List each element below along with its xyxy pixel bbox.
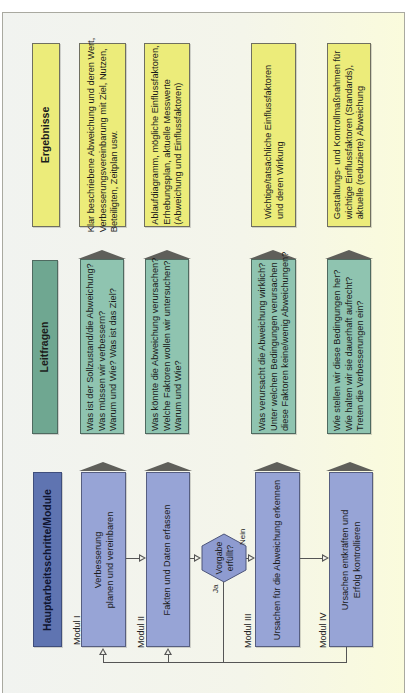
connector-line: [126, 558, 139, 559]
leitfrage-box-3: Was verursacht die Abweichung wirklich? …: [251, 259, 296, 434]
text-line: Verbesserung: [92, 511, 104, 608]
decision-no-label: Nein: [238, 529, 247, 545]
text-line: Erfolg kontrollieren: [351, 509, 363, 610]
text-line: Fakten und Daten erfassen: [162, 504, 174, 615]
module-header: Hauptarbeitsschritte/Module: [33, 472, 62, 647]
text-line: Wichtige/tatsächliche Einflussfaktoren: [262, 51, 274, 219]
text-line: Warum und Wie?: [173, 263, 185, 431]
decision-line: Vorgabe: [214, 542, 225, 575]
ergebnis-box-4: Gestaltungs- und Kontrollmaßnahmen für w…: [327, 43, 371, 227]
module-label-4: Modul IV: [318, 612, 328, 648]
arrow-up-icon: [99, 648, 107, 655]
text-line: Beteiligten, Zeitplan usw.: [108, 38, 120, 232]
arrow-right-icon: [139, 554, 146, 562]
text-line: (Abweichung und Einflussfaktoren): [173, 45, 185, 224]
text-line: Was müssen wir verbessern?: [96, 263, 108, 431]
triangle-arrow-icon: [325, 250, 373, 259]
text-line: Ursachen für die Abweichung erkennen: [272, 479, 284, 639]
text-line: Was verursacht die Abweichung wirklich?: [256, 263, 268, 431]
feedback-line-to-module2: [168, 655, 169, 662]
module-label-3: Modul III: [243, 613, 253, 648]
text-line: Ursachen entkräften und: [340, 509, 352, 610]
module-box-3: Ursachen für die Abweichung erkennen: [255, 472, 300, 647]
feedback-line-horizontal: [103, 662, 347, 663]
text-line: planen und vereinbaren: [104, 511, 116, 608]
ergebnis-box-2: Ablaufdiagramm, mögliche Einflussfaktore…: [144, 43, 190, 227]
text-line: und deren Wirkung: [274, 51, 286, 219]
text-line: diese Faktoren keine/wenig Abweichungen?: [279, 263, 291, 431]
ergebnisse-header: Ergebnisse: [32, 43, 60, 227]
triangle-arrow-icon: [79, 462, 127, 471]
leitfrage-box-1: Was ist der Sollzustand/die Abweichung? …: [80, 259, 124, 434]
module-header-label: Hauptarbeitsschritte/Module: [42, 489, 54, 631]
ergebnis-box-1: Klar beschriebene Abweichung und deren W…: [79, 43, 126, 227]
ergebnis-box-3: Wichtige/tatsächliche Einflussfaktoren u…: [251, 43, 296, 227]
triangle-arrow-icon: [253, 462, 301, 471]
leitfrage-box-4: Wie stellen wir diese Bedingungen her? W…: [327, 259, 371, 434]
text-line: Was könnte die Abweichung verursachen?: [150, 263, 162, 431]
triangle-arrow-icon: [326, 462, 374, 471]
decision-yes-label: Ja: [211, 585, 220, 593]
feedback-line-to-module1: [103, 655, 104, 662]
text-line: Gestaltungs- und Kontrollmaßnahmen für: [332, 51, 344, 220]
arrow-right-icon: [194, 554, 201, 562]
text-line: Ablaufdiagramm, mögliche Einflussfaktore…: [150, 45, 162, 224]
text-line: Was ist der Sollzustand/die Abweichung?: [85, 263, 97, 431]
arrow-up-icon: [164, 648, 172, 655]
triangle-arrow-icon: [78, 250, 126, 259]
text-line: Klar beschriebene Abweichung und deren W…: [85, 38, 97, 232]
module-label-2: Modul II: [136, 616, 146, 648]
text-line: Treten die Verbesserungen ein?: [355, 263, 367, 431]
text-line: Erhebungsplan, aktuelle Messwerte: [161, 45, 173, 224]
feedback-line-from-decision: [223, 582, 224, 662]
text-line: Verbesserungsvereinbarung mit Ziel, Nutz…: [97, 38, 109, 232]
text-line: wichtige Einflussfaktoren (Standards),: [343, 51, 355, 220]
module-box-4: Ursachen entkräften und Erfolg kontrolli…: [329, 472, 373, 647]
text-line: Warum und Wie? Was ist das Ziel?: [108, 263, 120, 431]
text-line: Wie halten wir sie dauerhaft aufrecht?: [343, 263, 355, 431]
feedback-line-from-module4: [346, 647, 347, 662]
decision-line: erfüllt?: [224, 542, 235, 575]
triangle-arrow-icon: [144, 462, 192, 471]
text-line: aktuelle (reduzierte) Abweichung: [355, 51, 367, 220]
module-label-1: Modul I: [72, 615, 82, 645]
text-line: Wie stellen wir diese Bedingungen her?: [332, 263, 344, 431]
arrow-right-icon: [322, 554, 329, 562]
arrow-right-icon: [248, 554, 255, 562]
connector-line: [300, 558, 322, 559]
text-line: Welche Faktoren wollen wir untersuchen?: [161, 263, 173, 431]
text-line: Unter welchen Bedingungen verursachen: [268, 263, 280, 431]
triangle-arrow-icon: [249, 250, 297, 259]
module-box-2: Fakten und Daten erfassen: [146, 472, 190, 647]
leitfragen-header-label: Leitfragen: [39, 322, 51, 373]
leitfragen-header: Leitfragen: [32, 260, 58, 434]
leitfrage-box-2: Was könnte die Abweichung verursachen? W…: [145, 259, 189, 434]
ergebnisse-header-label: Ergebnisse: [40, 107, 52, 164]
module-box-1: Verbesserung planen und vereinbaren: [81, 472, 126, 647]
